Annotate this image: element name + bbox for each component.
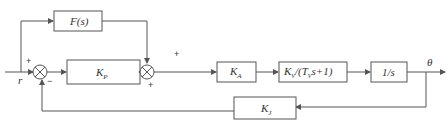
summing-junction-2: + +	[140, 49, 179, 90]
svg-text:1/s: 1/s	[382, 66, 395, 78]
block-amplifier: KA	[217, 62, 256, 82]
svg-text:+: +	[174, 49, 179, 59]
block-velocity: KV/(TVs+1)	[279, 62, 347, 82]
svg-text:−: −	[47, 76, 52, 86]
output-label: θ	[427, 56, 433, 68]
block-feedforward: F(s)	[54, 11, 102, 31]
block-integrator: 1/s	[371, 62, 407, 82]
summing-junction-1: + −	[26, 56, 52, 86]
block-proportional: KP	[67, 60, 140, 84]
svg-text:r: r	[18, 74, 23, 86]
block-diagram: r + − F(s) KP + + KA KV/(TVs+1)	[0, 0, 448, 127]
svg-text:+: +	[26, 56, 31, 66]
svg-text:F(s): F(s)	[69, 15, 89, 28]
block-feedback: KJ	[234, 97, 296, 119]
svg-text:+: +	[148, 80, 153, 90]
input-signal: r	[5, 72, 33, 86]
